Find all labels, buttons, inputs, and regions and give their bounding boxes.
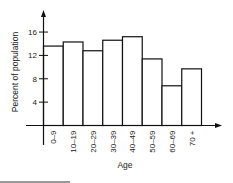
y-tick-label: 16	[28, 28, 37, 37]
y-axis-title: Percent of population	[10, 32, 20, 113]
histogram-chart: 481216 0–910–1920–2930–3940–4950–5960–69…	[0, 0, 233, 183]
x-axis-title: Age	[117, 160, 132, 170]
x-tick-label: 30–39	[109, 130, 118, 153]
x-tick-label: 50–59	[148, 130, 157, 153]
bar	[103, 40, 123, 125]
x-tick-label: 0–9	[49, 130, 58, 144]
bar	[182, 69, 202, 126]
x-tick-label: 70 +	[188, 130, 197, 146]
bar	[44, 46, 64, 125]
x-axis-arrow-icon	[215, 123, 222, 128]
y-tick-label: 12	[28, 51, 37, 60]
x-tick-labels: 0–910–1920–2930–3940–4950–5960–6970 +	[49, 130, 196, 153]
bar	[162, 86, 182, 126]
bar	[142, 59, 162, 126]
x-tick-label: 60–69	[168, 130, 177, 153]
y-axis-arrow-icon	[41, 10, 46, 17]
bar	[123, 37, 143, 126]
x-tick-label: 40–49	[128, 130, 137, 153]
x-tick-label: 10–19	[69, 130, 78, 153]
bar	[63, 42, 83, 126]
x-tick-label: 20–29	[89, 130, 98, 153]
bars	[44, 37, 202, 126]
y-tick-label: 8	[33, 75, 38, 84]
y-tick-label: 4	[33, 98, 38, 107]
bar	[83, 51, 103, 126]
